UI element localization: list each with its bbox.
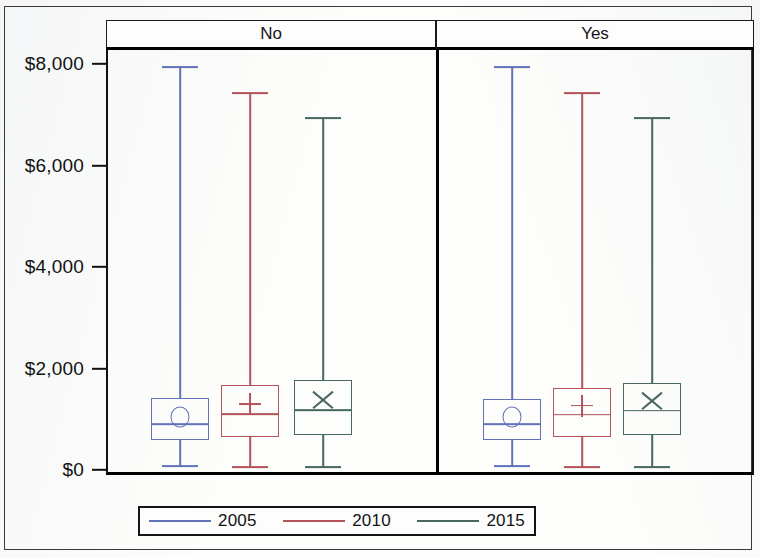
upper-whisker-line — [651, 118, 653, 382]
legend-label-2015: 2015 — [486, 511, 525, 531]
legend-swatch-2010 — [283, 520, 345, 522]
legend-label-2005: 2005 — [218, 511, 257, 531]
legend-item-2010[interactable]: 2010 — [283, 511, 391, 531]
figure-page: No Yes $8,000$6,000$4,000$2,000$0 2005 2… — [0, 0, 760, 558]
upper-whisker-cap — [634, 117, 670, 119]
lower-whisker-cap — [634, 466, 670, 468]
legend-item-2015[interactable]: 2015 — [417, 511, 525, 531]
legend: 2005 2010 2015 — [138, 506, 536, 536]
lower-whisker-line — [651, 435, 653, 467]
legend-swatch-2005 — [149, 520, 211, 522]
median-line — [623, 410, 681, 412]
box-plot-yes-2015[interactable] — [0, 0, 760, 558]
legend-swatch-2015 — [417, 520, 479, 522]
legend-item-2005[interactable]: 2005 — [149, 511, 257, 531]
legend-label-2010: 2010 — [352, 511, 391, 531]
